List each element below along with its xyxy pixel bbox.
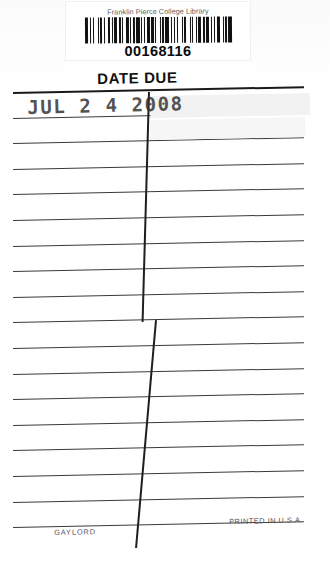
paper-left-margin	[0, 90, 13, 545]
vertical-divider-line	[142, 92, 150, 322]
ruled-line	[13, 265, 304, 272]
ruled-line	[13, 291, 304, 298]
ruled-line	[13, 137, 304, 144]
ruled-line	[13, 470, 304, 477]
library-name-label: Franklin Pierce College Library	[66, 6, 250, 17]
paper-tint-top-right	[250, 0, 330, 90]
ruled-line	[13, 445, 304, 452]
scan-shade-band-lower	[150, 117, 305, 140]
ruled-line	[13, 342, 304, 349]
manufacturer-label: GAYLORD	[54, 527, 96, 537]
vertical-divider-line	[135, 320, 157, 551]
ruled-line	[13, 189, 304, 196]
paper-tint-top-left	[0, 0, 66, 95]
date-due-heading: DATE DUE	[97, 68, 178, 87]
ruled-line	[13, 393, 304, 400]
ruled-line	[13, 317, 304, 324]
barcode-sticker: Franklin Pierce College Library 00168116	[66, 2, 250, 60]
ruled-line	[13, 163, 304, 170]
ruled-line	[13, 214, 304, 221]
paper-bottom-margin	[0, 548, 330, 566]
ruled-line	[13, 368, 304, 375]
date-due-card: Franklin Pierce College Library 00168116…	[0, 0, 330, 566]
printed-origin-label: PRINTED IN U.S.A.	[229, 515, 303, 526]
barcode-icon	[85, 16, 233, 43]
ruled-line	[13, 419, 304, 426]
barcode-number-label: 00168116	[66, 43, 250, 59]
due-date-stamp: JUL 2 4 2008	[27, 92, 184, 118]
ruled-line	[13, 240, 304, 247]
ruled-line	[13, 496, 304, 503]
